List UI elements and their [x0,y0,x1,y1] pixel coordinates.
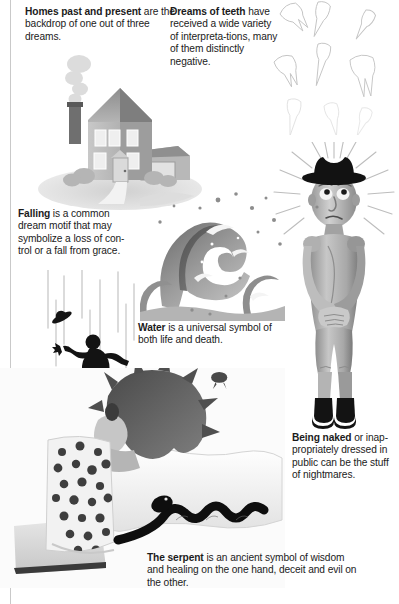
caption-falling-lead: Falling [18,208,50,219]
caption-water: Water is a universal symbol of both life… [138,322,273,347]
caption-homes-lead: Homes past and present [25,6,141,17]
caption-water-lead: Water [138,322,165,333]
caption-homes: Homes past and present are the backdrop … [25,6,175,43]
caption-naked: Being naked or inap-propriately dressed … [292,432,396,482]
caption-teeth: Dreams of teeth have received a wide var… [170,6,280,68]
wave-illustration [140,186,285,321]
caption-naked-lead: Being naked [292,432,351,443]
caption-serpent-lead: The serpent [147,552,204,563]
caption-falling: Falling is a common dream motif that may… [18,208,138,258]
caption-serpent: The serpent is an ancient symbol of wisd… [147,552,357,589]
naked-man-illustration [272,142,396,432]
teeth-illustration [262,0,399,135]
caption-teeth-lead: Dreams of teeth [170,6,246,17]
page-canvas: Homes past and present are the backdrop … [0,0,399,604]
